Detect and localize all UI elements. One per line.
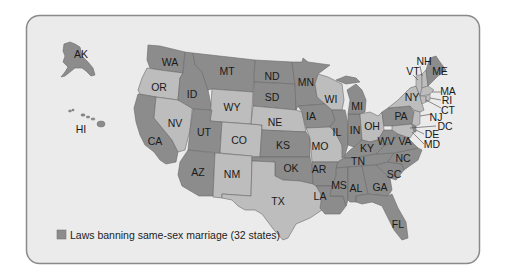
label-NC: NC: [395, 152, 411, 164]
label-MS: MS: [331, 179, 347, 191]
label-NY: NY: [405, 91, 420, 103]
label-IA: IA: [306, 110, 316, 122]
label-MN: MN: [298, 76, 314, 88]
same-sex-marriage-ban-map: AK HI WA OR CA NV ID MT WY UT CO AZ NM N…: [0, 0, 522, 279]
label-KY: KY: [360, 142, 374, 154]
legend-label: Laws banning same-sex marriage (32 state…: [70, 229, 280, 241]
label-MO: MO: [312, 140, 329, 152]
label-GA: GA: [372, 181, 387, 193]
label-KS: KS: [276, 139, 290, 151]
label-ND: ND: [264, 70, 280, 82]
label-UT: UT: [197, 126, 212, 138]
label-ID: ID: [187, 88, 198, 100]
label-NH: NH: [416, 55, 431, 67]
label-IN: IN: [350, 124, 361, 136]
label-MT: MT: [219, 65, 235, 77]
label-AR: AR: [312, 163, 327, 175]
label-LA: LA: [314, 190, 327, 202]
label-WI: WI: [325, 93, 338, 105]
label-PA: PA: [394, 110, 407, 122]
label-WV: WV: [378, 135, 395, 147]
label-WY: WY: [224, 101, 241, 113]
label-CA: CA: [148, 135, 163, 147]
label-NV: NV: [168, 117, 183, 129]
label-TN: TN: [351, 155, 365, 167]
label-NM: NM: [224, 168, 240, 180]
label-IL: IL: [333, 126, 342, 138]
label-MD: MD: [424, 138, 441, 150]
label-HI: HI: [76, 123, 87, 135]
label-TX: TX: [271, 195, 284, 207]
label-SC: SC: [387, 168, 402, 180]
label-FL: FL: [392, 218, 404, 230]
label-OH: OH: [364, 120, 380, 132]
label-AK: AK: [74, 48, 88, 60]
label-CO: CO: [231, 134, 247, 146]
label-NE: NE: [268, 116, 283, 128]
label-AL: AL: [350, 182, 363, 194]
label-WA: WA: [162, 56, 179, 68]
label-OR: OR: [151, 81, 167, 93]
label-SD: SD: [265, 91, 280, 103]
label-VA: VA: [398, 135, 411, 147]
label-CT: CT: [441, 104, 456, 116]
label-ME: ME: [432, 65, 448, 77]
label-DC: DC: [437, 120, 453, 132]
label-AZ: AZ: [191, 166, 205, 178]
legend-swatch: [57, 230, 66, 239]
label-OK: OK: [283, 162, 298, 174]
label-MI: MI: [351, 100, 363, 112]
